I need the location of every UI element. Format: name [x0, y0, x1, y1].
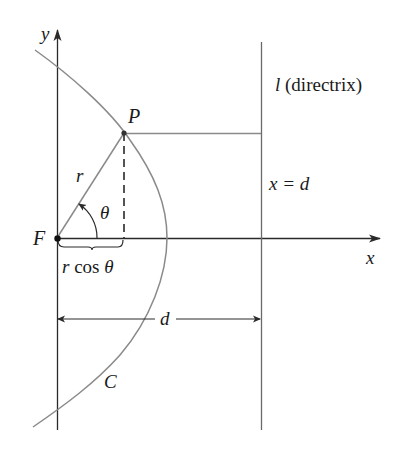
parabola-diagram: y x P F r θ r cos θ l (directrix) x = d … — [0, 0, 405, 458]
radius-line-r — [57, 133, 124, 238]
diagram-canvas: y x P F r θ r cos θ l (directrix) x = d … — [0, 0, 405, 458]
directrix-equation-label: x = d — [268, 173, 310, 194]
theta-label: θ — [100, 202, 109, 223]
theta-angle-arc — [79, 204, 97, 238]
directrix-label: l (directrix) — [275, 74, 362, 96]
point-P-label: P — [127, 105, 140, 127]
point-P — [121, 130, 126, 135]
y-axis-label: y — [39, 23, 50, 44]
focus-F-label: F — [32, 227, 46, 249]
focus-point-F — [54, 235, 60, 241]
curve-C-label: C — [104, 371, 117, 392]
x-axis-label: x — [365, 247, 375, 268]
r-cos-theta-brace — [58, 240, 123, 250]
r-cos-theta-label: r cos θ — [62, 256, 114, 277]
radius-r-label: r — [76, 165, 84, 186]
distance-d-label: d — [160, 308, 170, 329]
